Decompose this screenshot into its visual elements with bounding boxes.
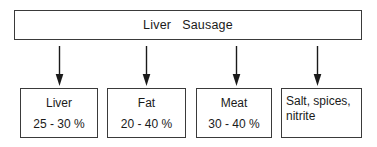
component-label: Fat bbox=[138, 96, 155, 110]
arrow-down-icon bbox=[232, 46, 241, 86]
component-percentage: 20 - 40 % bbox=[121, 117, 172, 131]
component-percentage: 30 - 40 % bbox=[208, 117, 259, 131]
arrow-down-icon bbox=[313, 46, 322, 86]
component-label: Liver bbox=[46, 96, 72, 110]
arrow-down-icon bbox=[55, 46, 64, 86]
component-label: Meat bbox=[221, 96, 248, 110]
component-box-salt-spices-nitrite: Salt, spices, nitrite bbox=[281, 88, 362, 138]
component-percentage: 25 - 30 % bbox=[33, 117, 84, 131]
top-node-label: Liver Sausage bbox=[143, 18, 233, 32]
top-node-liver-sausage: Liver Sausage bbox=[14, 10, 362, 40]
component-box-meat: Meat 30 - 40 % bbox=[196, 88, 272, 138]
component-box-fat: Fat 20 - 40 % bbox=[107, 88, 186, 138]
arrow-down-icon bbox=[142, 46, 151, 86]
component-label: Salt, spices, nitrite bbox=[286, 94, 351, 123]
component-box-liver: Liver 25 - 30 % bbox=[20, 88, 98, 138]
liver-sausage-composition-diagram: Liver Sausage Liver 25 - 30 % Fat 20 - 4… bbox=[0, 0, 377, 147]
